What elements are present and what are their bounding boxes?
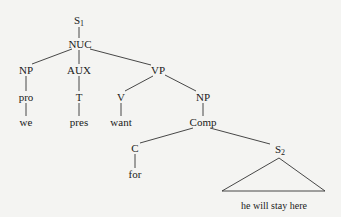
node-pres: pres — [70, 117, 88, 128]
syntax-tree-diagram: S1 NUC NP AUX VP pro T V we pres want NP… — [0, 0, 341, 217]
node-s2-text: he will stay here — [241, 201, 307, 211]
node-s2: S2 — [275, 144, 285, 157]
node-want: want — [110, 117, 131, 128]
edge-comp-s2 — [210, 128, 270, 144]
tree-edges — [0, 0, 341, 217]
node-v: V — [117, 92, 125, 103]
node-vp: VP — [151, 65, 165, 76]
node-np: NP — [19, 65, 33, 76]
edge-vp-np — [165, 75, 196, 91]
node-t: T — [76, 92, 83, 103]
edge-nuc-np — [32, 49, 72, 64]
triangle-s2 — [222, 158, 325, 191]
node-comp: Comp — [190, 117, 217, 128]
node-np-2: NP — [196, 92, 210, 103]
edge-nuc-vp — [90, 49, 151, 65]
node-subscript: 2 — [281, 148, 285, 157]
node-c: C — [131, 143, 138, 154]
edge-comp-c — [140, 128, 193, 143]
node-pro: pro — [19, 92, 34, 103]
node-aux: AUX — [67, 65, 91, 76]
node-we: we — [20, 117, 33, 128]
node-s1: S1 — [74, 15, 84, 28]
node-for: for — [129, 169, 142, 180]
node-subscript: 1 — [80, 19, 84, 28]
edge-vp-v — [125, 76, 153, 91]
node-nuc: NUC — [68, 39, 91, 50]
